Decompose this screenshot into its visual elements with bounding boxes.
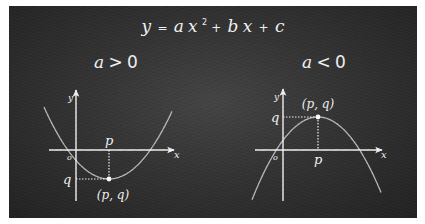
x-axis-label: x — [381, 149, 387, 160]
graph-a-positive: y x o p q (p, q) — [44, 90, 180, 202]
formula-title: y = a x 2 + b x + c — [141, 10, 285, 36]
formula-equals: = — [157, 21, 167, 35]
formula-plus-1: + — [211, 21, 221, 35]
case-op: < — [316, 52, 330, 72]
chalkboard: y = a x 2 + b x + c a > 0 a < 0 — [9, 6, 417, 218]
q-label: q — [271, 110, 279, 125]
origin-label: o — [67, 153, 72, 162]
formula-y: y — [141, 16, 152, 36]
case-var: a — [302, 52, 312, 72]
formula-b: b — [228, 16, 239, 36]
vertex-label: (p, q) — [302, 97, 335, 111]
formula-x: x — [188, 16, 198, 36]
case-label-positive: a > 0 — [94, 52, 138, 72]
formula-plus-2: + — [259, 21, 269, 35]
origin-label: o — [273, 153, 278, 162]
formula-c: c — [275, 16, 285, 36]
y-axis-label: y — [67, 93, 74, 103]
formula-x2: x — [243, 16, 253, 36]
vertex-point — [107, 177, 112, 182]
p-label: p — [314, 152, 323, 167]
formula-a: a — [174, 16, 184, 36]
p-label: p — [105, 133, 114, 148]
graph-a-negative: y x o p q (p, q) — [252, 89, 387, 201]
case-var: a — [94, 52, 104, 72]
case-op: > — [108, 52, 122, 72]
formula-exponent: 2 — [202, 18, 207, 27]
x-axis-label: x — [174, 149, 180, 160]
y-axis-label: y — [273, 92, 280, 102]
case-num: 0 — [335, 52, 346, 72]
q-label: q — [63, 172, 71, 187]
diagram-canvas: y = a x 2 + b x + c a > 0 a < 0 — [9, 6, 417, 218]
vertex-label: (p, q) — [97, 188, 130, 202]
case-label-negative: a < 0 — [302, 52, 346, 72]
vertex-point — [316, 115, 321, 120]
case-num: 0 — [127, 52, 138, 72]
